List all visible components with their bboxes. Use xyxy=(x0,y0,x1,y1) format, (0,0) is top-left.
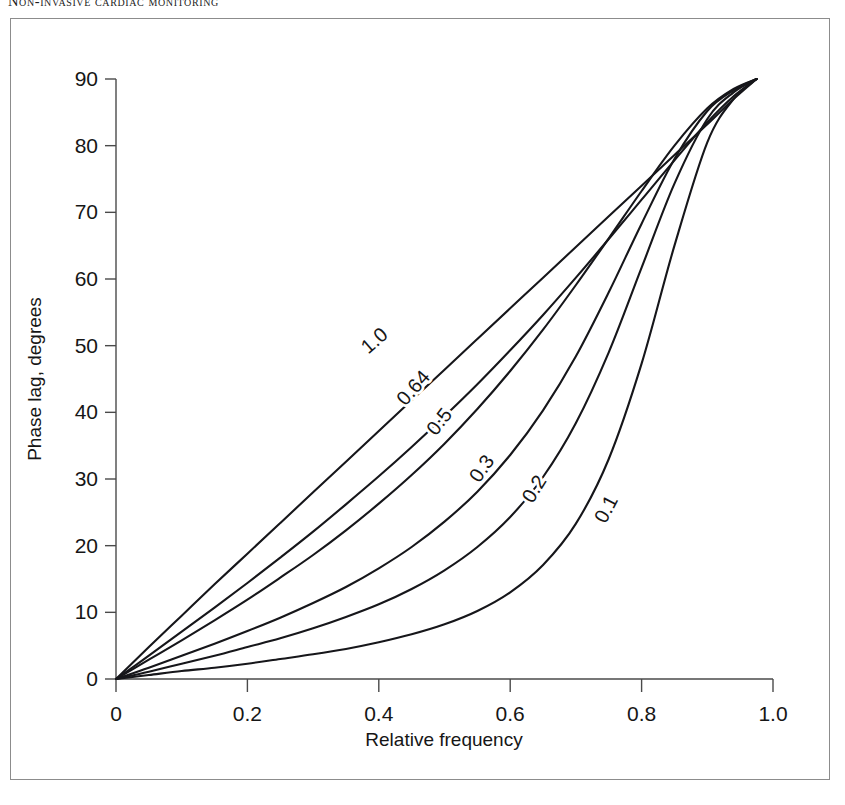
y-tick-label: 50 xyxy=(75,334,98,357)
curve-labels-group: 1.01.00.640.640.50.50.30.30.20.20.10.1 xyxy=(356,323,622,526)
y-tick-label: 20 xyxy=(75,534,98,557)
figure-page: Non-invasive cardiac monitoring 01020304… xyxy=(0,0,845,805)
curve-label-0.2: 0.2 xyxy=(517,471,550,506)
y-tick-label: 70 xyxy=(75,200,98,223)
y-tick-label: 30 xyxy=(75,467,98,490)
y-tick-label: 10 xyxy=(75,600,98,623)
x-axis-title: Relative frequency xyxy=(365,729,523,750)
x-tick-label: 0 xyxy=(110,702,122,725)
y-tick-group: 0102030405060708090 xyxy=(75,67,116,690)
y-axis-title: Phase lag, degrees xyxy=(24,297,45,461)
x-tick-label: 1.0 xyxy=(758,702,787,725)
curve-label-0.3: 0.3 xyxy=(465,451,499,486)
y-tick-label: 60 xyxy=(75,267,98,290)
phase-lag-chart: 0102030405060708090 00.20.40.60.81.0 1.0… xyxy=(11,19,829,779)
axes-group xyxy=(116,79,773,679)
x-tick-label: 0.2 xyxy=(233,702,262,725)
curve-label-0.1: 0.1 xyxy=(590,492,622,527)
x-tick-label: 0.6 xyxy=(496,702,525,725)
x-tick-group: 00.20.40.60.81.0 xyxy=(110,679,787,725)
x-tick-label: 0.8 xyxy=(627,702,656,725)
x-tick-label: 0.4 xyxy=(364,702,394,725)
y-tick-label: 80 xyxy=(75,134,98,157)
figure-frame: 0102030405060708090 00.20.40.60.81.0 1.0… xyxy=(10,18,830,780)
curve-1.0 xyxy=(116,79,757,679)
curves-group xyxy=(116,79,757,679)
curve-label-1.0: 1.0 xyxy=(356,323,391,358)
y-tick-label: 90 xyxy=(75,67,98,90)
y-tick-label: 40 xyxy=(75,400,98,423)
running-head: Non-invasive cardiac monitoring xyxy=(8,0,219,10)
curve-label-0.64: 0.64 xyxy=(392,366,434,410)
y-tick-label: 0 xyxy=(86,667,98,690)
